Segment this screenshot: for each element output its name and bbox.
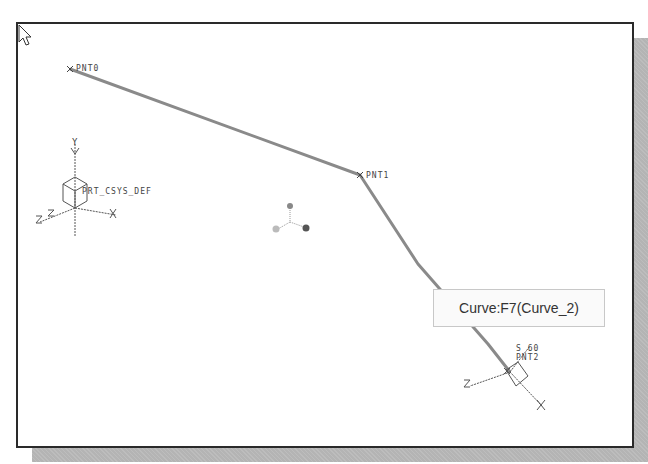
- pnt0-label: PNT0: [76, 64, 99, 73]
- model-canvas[interactable]: [18, 24, 632, 446]
- graphics-viewport[interactable]: PNT0 PNT1 PNT2 S 60 PRT_CSYS_DEF Y Curve…: [16, 22, 634, 448]
- pnt1-label: PNT1: [366, 171, 389, 180]
- pnt2-label: PNT2: [516, 353, 539, 362]
- y-axis-label: Y: [72, 137, 78, 147]
- view-triad-icon: [273, 203, 310, 233]
- tooltip-text: Curve:F7(Curve_2): [459, 300, 579, 316]
- default-csys-label: PRT_CSYS_DEF: [82, 187, 152, 196]
- mouse-pointer-icon: [18, 24, 34, 48]
- pnt2-csys-label: S 60: [516, 344, 539, 353]
- preselection-tooltip: Curve:F7(Curve_2): [433, 289, 605, 327]
